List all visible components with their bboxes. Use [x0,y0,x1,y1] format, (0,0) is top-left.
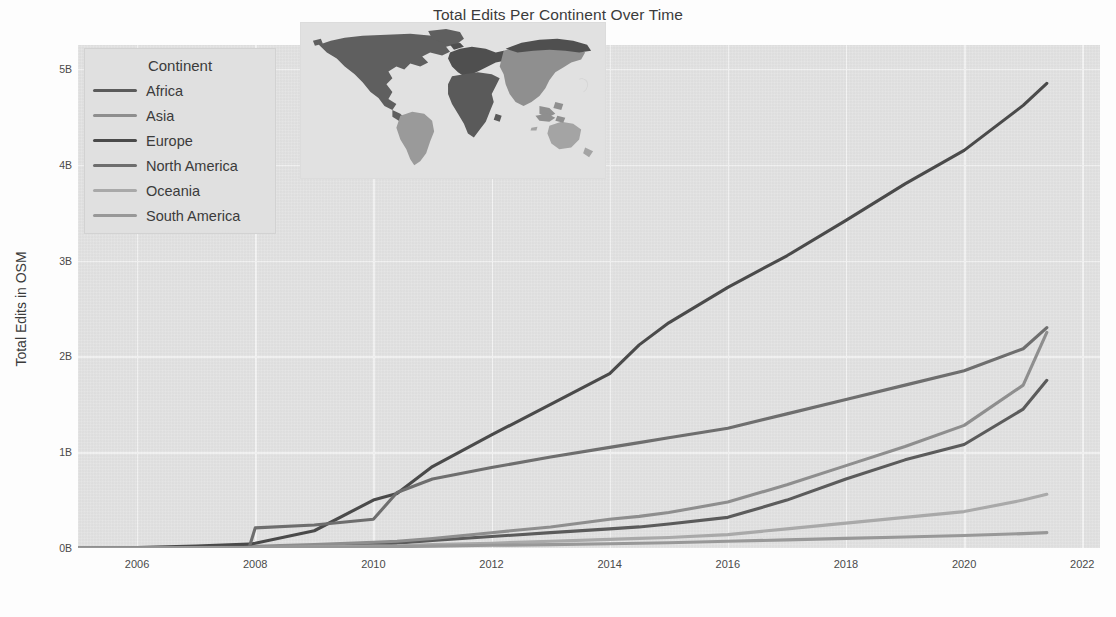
y-axis-label: Total Edits in OSM [10,0,32,617]
legend-item-label: Africa [146,83,183,99]
legend-item-europe[interactable]: Europe [93,128,267,153]
series-line-africa [78,380,1047,548]
x-tick-label: 2006 [107,558,167,570]
y-tick-label: 4B [44,159,72,171]
y-axis-label-text: Total Edits in OSM [13,251,29,366]
legend-item-africa[interactable]: Africa [93,78,267,103]
map-region-asia [500,43,585,118]
y-tick-label: 3B [44,255,72,267]
legend-item-label: Oceania [146,183,200,199]
legend-item-north-america[interactable]: North America [93,153,267,178]
series-line-north-america [78,328,1047,548]
x-tick-label: 2020 [934,558,994,570]
map-region-oceania [547,122,593,158]
y-tick-label: 2B [44,350,72,362]
series-line-asia [78,332,1047,548]
x-tick-label: 2022 [1052,558,1112,570]
chart-figure: Total Edits Per Continent Over Time Tota… [0,0,1116,617]
world-map-svg [301,23,605,178]
legend-swatch-icon [93,114,137,117]
series-line-oceania [78,494,1047,548]
legend-swatch-icon [93,89,137,92]
legend-items: AfricaAsiaEuropeNorth AmericaOceaniaSout… [93,78,267,228]
legend-swatch-icon [93,139,137,142]
legend-item-asia[interactable]: Asia [93,103,267,128]
y-tick-label: 5B [44,63,72,75]
map-region-africa [448,72,502,137]
y-tick-label: 1B [44,446,72,458]
legend-title: Continent [93,57,267,74]
legend: Continent AfricaAsiaEuropeNorth AmericaO… [84,48,276,234]
legend-swatch-icon [93,189,137,192]
map-region-south-america [396,112,434,165]
legend-item-label: Europe [146,133,193,149]
x-tick-label: 2010 [343,558,403,570]
legend-item-label: South America [146,208,240,224]
legend-item-label: Asia [146,108,174,124]
legend-item-label: North America [146,158,238,174]
y-tick-label: 0B [44,542,72,554]
x-tick-label: 2016 [698,558,758,570]
legend-item-south-america[interactable]: South America [93,203,267,228]
map-region-islands [530,127,537,131]
x-tick-label: 2018 [816,558,876,570]
x-tick-label: 2012 [462,558,522,570]
legend-swatch-icon [93,214,137,217]
x-tick-label: 2008 [225,558,285,570]
map-region-north-america [313,34,460,110]
legend-item-oceania[interactable]: Oceania [93,178,267,203]
legend-swatch-icon [93,164,137,167]
x-tick-label: 2014 [580,558,640,570]
world-continent-map [300,22,606,179]
